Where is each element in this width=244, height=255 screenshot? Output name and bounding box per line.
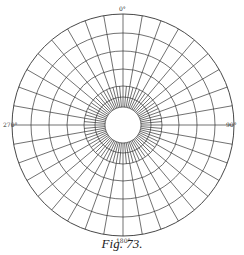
- spoke: [141, 122, 162, 124]
- label-90-degrees: 90°: [226, 122, 237, 128]
- spoke: [38, 54, 109, 114]
- label-270-degrees: 270°: [3, 122, 17, 128]
- spoke: [52, 40, 112, 111]
- spoke: [135, 40, 195, 111]
- spoke: [137, 54, 208, 114]
- spoke: [84, 127, 105, 129]
- spoke: [38, 137, 109, 197]
- spoke: [125, 86, 127, 107]
- polar-grid-diagram: [0, 0, 244, 240]
- spoke: [120, 143, 122, 164]
- spoke: [135, 139, 195, 210]
- spoke: [84, 122, 105, 124]
- spoke: [120, 86, 122, 107]
- figure-caption: Fig. 73.: [0, 236, 244, 252]
- radial-spokes: [12, 14, 234, 236]
- spoke: [52, 139, 112, 210]
- spoke: [137, 137, 208, 197]
- ring: [105, 107, 141, 143]
- spoke: [125, 143, 127, 164]
- label-0-degrees: 0°: [119, 6, 126, 12]
- spoke: [141, 127, 162, 129]
